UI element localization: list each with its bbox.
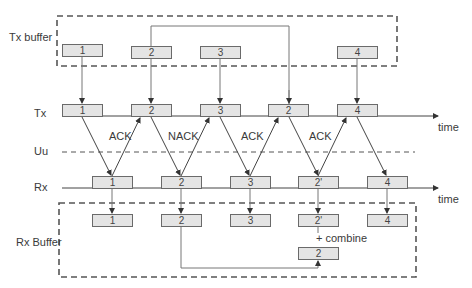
tx-buffer-packet: 3 bbox=[200, 46, 241, 59]
rx-label: Rx bbox=[34, 181, 47, 193]
rx-packet: 4 bbox=[367, 176, 408, 189]
tx-buffer-packet: 4 bbox=[337, 46, 378, 59]
tx-packet: 2 bbox=[131, 104, 172, 117]
uu-label: Uu bbox=[34, 145, 48, 157]
rx-buffer-packet: 3 bbox=[230, 214, 271, 227]
combined-packet: 2 bbox=[298, 247, 339, 260]
rx-packet: 2 bbox=[161, 176, 202, 189]
rx-packet: 1 bbox=[92, 176, 133, 189]
feedback-arrows bbox=[112, 118, 346, 176]
rx-time-label: time bbox=[438, 193, 459, 205]
combine-label: + combine bbox=[316, 232, 367, 244]
rx-buffer-label: Rx Buffer bbox=[16, 236, 62, 248]
rx-packet: 2' bbox=[298, 176, 339, 189]
tx-packet: 3 bbox=[200, 104, 241, 117]
feedback-label-nack: NACK bbox=[168, 130, 199, 142]
tx-buffer-to-tx-arrows bbox=[82, 57, 357, 103]
rx-buffer-packet: 4 bbox=[367, 214, 408, 227]
feedback-label-ack: ACK bbox=[309, 130, 332, 142]
tx-label: Tx bbox=[34, 107, 46, 119]
tx-packet: 4 bbox=[337, 104, 378, 117]
feedback-label-ack: ACK bbox=[109, 130, 132, 142]
tx-packet: 1 bbox=[62, 104, 103, 117]
transmission-arrows bbox=[82, 117, 386, 175]
rx-packet: 3 bbox=[230, 176, 271, 189]
tx-buffer-packet: 2 bbox=[131, 46, 172, 59]
rx-buffer-packet: 2' bbox=[298, 214, 339, 227]
rx-to-rx-buffer-arrows bbox=[112, 189, 387, 213]
tx-buffer-packet: 1 bbox=[62, 44, 103, 57]
rx-buffer-packet: 1 bbox=[92, 214, 133, 227]
tx-buffer-label: Tx buffer bbox=[9, 31, 52, 43]
tx-time-label: time bbox=[438, 121, 459, 133]
feedback-label-ack: ACK bbox=[241, 130, 264, 142]
tx-packet: 2 bbox=[268, 104, 309, 117]
rx-buffer-packet: 2 bbox=[161, 214, 202, 227]
